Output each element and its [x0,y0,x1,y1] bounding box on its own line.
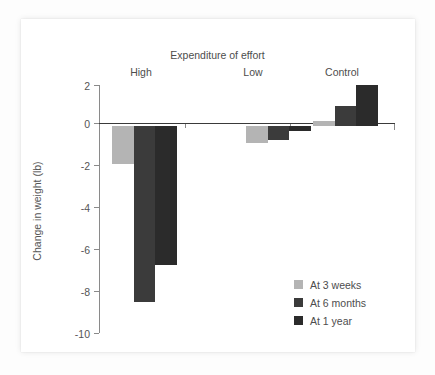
legend-item-6-months: At 6 months [294,295,404,313]
y-tick-mark [94,165,99,166]
bar [289,126,311,131]
y-tick-mark [94,249,99,250]
chart-screenshot: Expenditure of effort High Low Control C… [0,0,435,375]
chart-legend: At 3 weeks At 6 months At 1 year [294,277,404,331]
x-axis-end-tick [394,124,395,130]
legend-item-3-weeks: At 3 weeks [294,277,404,295]
bar [155,126,177,264]
bar [313,121,335,126]
legend-label: At 6 months [310,297,366,309]
legend-label: At 3 weeks [310,279,361,291]
y-tick-label: -8 [60,286,90,298]
y-tick-mark [94,333,99,334]
bar-chart: Expenditure of effort High Low Control C… [0,0,435,375]
y-tick-label: -2 [60,160,90,172]
y-tick-mark [94,207,99,208]
bar [356,85,378,126]
legend-item-1-year: At 1 year [294,313,404,331]
y-axis-title: Change in weight (lb) [31,131,43,291]
y-tick-label: 0 [60,118,90,130]
y-tick-label: 2 [60,80,90,92]
y-tick-mark [94,291,99,292]
legend-swatch-icon [294,280,303,289]
bar [134,126,156,302]
x-tick-mark [185,124,186,128]
y-tick-label: -6 [60,244,90,256]
legend-swatch-icon [294,298,303,307]
y-tick-mark [94,85,99,86]
legend-swatch-icon [294,316,303,325]
bar [112,126,134,163]
group-label-control: Control [297,67,387,78]
bar [268,126,290,139]
bar [335,106,357,127]
y-tick-label: -10 [60,328,90,340]
bar [246,126,268,143]
group-label-high: High [96,67,186,78]
group-label-low: Low [208,67,298,78]
legend-label: At 1 year [310,315,352,327]
y-tick-label: -4 [60,202,90,214]
chart-title: Expenditure of effort [0,50,435,61]
